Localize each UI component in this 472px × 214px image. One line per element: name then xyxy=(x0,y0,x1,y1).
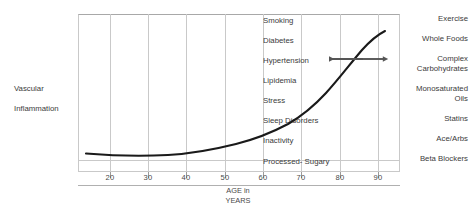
x-tick-label-40: 40 xyxy=(173,173,199,182)
gridline-vertical-30 xyxy=(148,14,149,172)
gridline-vertical-20 xyxy=(110,14,111,172)
gridline-vertical-40 xyxy=(186,14,187,172)
benefit-item-carbohydrates: Carbohydrates xyxy=(376,64,468,74)
risk-item-sleep-disorders: Sleep Disorders xyxy=(263,116,343,126)
risk-item-smoking: Smoking xyxy=(263,16,343,26)
risk-item-hypertension: Hypertension xyxy=(263,56,343,66)
benefit-item-beta-blockers: Beta Blockers xyxy=(376,154,468,164)
risk-item-inactivity: Inactivity xyxy=(263,136,343,146)
protective-factor-list: Exercise Whole Foods Complex Carbohydrat… xyxy=(376,12,468,164)
x-tick-label-30: 30 xyxy=(135,173,161,182)
y-axis-caption-line1: Vascular xyxy=(14,84,44,94)
benefit-item-exercise: Exercise xyxy=(376,14,468,24)
y-axis-caption-line2: Inflammation xyxy=(14,104,59,114)
plot-area xyxy=(78,14,400,172)
benefit-item-oils: Oils xyxy=(376,94,468,104)
gridline-horizontal-bottom xyxy=(78,171,400,172)
x-tick-label-60: 60 xyxy=(250,173,276,182)
x-tick-label-50: 50 xyxy=(212,173,238,182)
x-tick-label-90: 90 xyxy=(365,173,391,182)
risk-item-diabetes: Diabetes xyxy=(263,36,343,46)
x-axis-title: AGE in YEARS xyxy=(178,186,298,205)
risk-factor-list: Smoking Diabetes Hypertension Lipidemia … xyxy=(263,14,343,167)
risk-item-processed-sugary: Processed- Sugary xyxy=(263,157,343,167)
vascular-inflammation-chart: 20 30 40 50 60 70 80 90 AGE in YEARS Vas… xyxy=(0,0,472,214)
benefit-item-statins: Statins xyxy=(376,114,468,124)
risk-item-lipidemia: Lipidemia xyxy=(263,76,343,86)
benefit-item-complex: Complex xyxy=(376,54,468,64)
benefit-item-ace-arbs: Ace/Arbs xyxy=(376,134,468,144)
x-axis-title-line2: YEARS xyxy=(178,196,298,206)
benefit-item-whole-foods: Whole Foods xyxy=(376,34,468,44)
x-tick-label-20: 20 xyxy=(97,173,123,182)
risk-item-stress: Stress xyxy=(263,96,343,106)
gridline-vertical-50 xyxy=(225,14,226,172)
gridline-horizontal-baseline xyxy=(78,160,400,161)
benefit-item-monosaturated: Monosaturated xyxy=(376,84,468,94)
x-tick-label-70: 70 xyxy=(288,173,314,182)
x-tick-label-80: 80 xyxy=(327,173,353,182)
x-axis-title-line1: AGE in xyxy=(178,186,298,196)
